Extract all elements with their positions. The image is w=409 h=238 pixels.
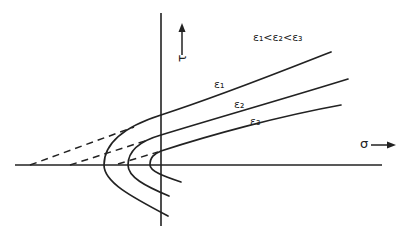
curve-label-epsilon-2: ε₂ [234, 98, 244, 111]
tau-axis-label: τ [175, 55, 189, 62]
sigma-arrow-icon [371, 142, 396, 149]
diagram-svg: τ σ ε₁<ε₂<ε₃ ε₁ ε₂ [0, 0, 409, 238]
asymptote-2 [70, 140, 148, 165]
curve-label-epsilon-1: ε₁ [214, 78, 224, 91]
sigma-axis-label: σ [360, 136, 368, 151]
strain-condition-label: ε₁<ε₂<ε₃ [253, 31, 303, 44]
asymptote-1 [30, 127, 134, 165]
diagram-canvas: τ σ ε₁<ε₂<ε₃ ε₁ ε₂ [0, 0, 409, 238]
curve-label-epsilon-3: ε₃ [250, 115, 260, 128]
curve-epsilon-3 [150, 105, 341, 182]
tau-arrow-icon [179, 23, 186, 55]
axes [15, 13, 382, 226]
